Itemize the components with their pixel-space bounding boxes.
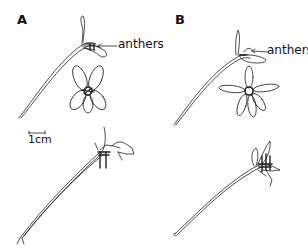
- panel-b-side-flower: [174, 30, 268, 125]
- panel-a-front-flower: [67, 64, 109, 113]
- anthers-label-b: anthers: [267, 43, 308, 57]
- panel-label-a: A: [17, 12, 27, 27]
- scale-bar-label: 1cm: [28, 133, 52, 146]
- panel-b-front-flower: [219, 66, 280, 117]
- anthers-label-a: anthers: [118, 37, 164, 51]
- panel-label-b: B: [175, 12, 185, 27]
- panel-b-lower-flower: [174, 141, 280, 236]
